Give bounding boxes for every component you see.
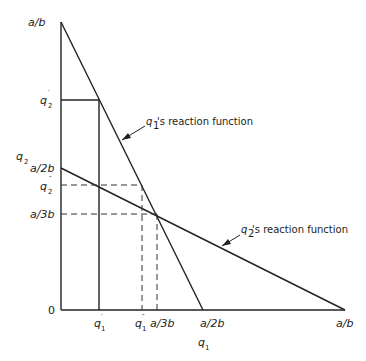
q1-reaction-line <box>61 22 203 310</box>
svg-text:q: q <box>135 317 142 330</box>
y-label-a-2b: a/2b <box>30 162 54 175</box>
q2-reaction-line <box>61 168 345 310</box>
svg-text:2: 2 <box>48 102 52 110</box>
x-label-a-2b: a/2b <box>200 317 224 330</box>
svg-text:′: ′ <box>48 89 50 97</box>
q2-annotation-arrowhead-icon <box>222 239 231 246</box>
x-axis-title: q 1 <box>198 336 209 352</box>
svg-text:″: ″ <box>142 313 145 321</box>
q1-annotation-arrowhead-icon <box>122 133 131 140</box>
svg-text:q: q <box>40 180 47 193</box>
svg-text:q: q <box>146 116 152 127</box>
origin-label: 0 <box>48 304 55 317</box>
y-label-a-3b: a/3b <box>30 208 54 221</box>
x-label-a-b: a/b <box>336 317 353 330</box>
svg-text:q: q <box>198 336 205 349</box>
svg-text:2: 2 <box>24 158 28 166</box>
q1-reaction-annotation: q 1 's reaction function <box>146 116 253 131</box>
svg-text:1: 1 <box>205 344 209 352</box>
q2-reaction-annotation: q 2 's reaction function <box>241 224 348 239</box>
x-label-q1-double-prime: q 1 ″ <box>135 313 146 333</box>
svg-text:′: ′ <box>101 313 103 321</box>
svg-text:'s reaction function: 's reaction function <box>157 116 253 127</box>
svg-text:″: ″ <box>49 175 52 183</box>
x-label-a-3b: a/3b <box>150 317 174 330</box>
svg-text:'s reaction function: 's reaction function <box>252 224 348 235</box>
y-label-q2-prime: q 2 ′ <box>40 89 52 110</box>
svg-text:2: 2 <box>48 188 52 196</box>
svg-text:1: 1 <box>142 325 146 333</box>
svg-text:q: q <box>16 150 23 163</box>
x-label-q1-prime: q 1 ′ <box>94 313 105 333</box>
svg-text:q: q <box>241 224 247 235</box>
svg-text:q: q <box>94 317 101 330</box>
y-axis-title: q 2 <box>16 150 28 166</box>
y-label-a-b: a/b <box>28 16 45 29</box>
svg-text:1: 1 <box>101 325 105 333</box>
reaction-function-diagram: a/b q 2 ′ q 2 a/2b q 2 ″ a/3b 0 q 1 ′ q … <box>0 0 366 361</box>
y-label-q2-double-prime: q 2 ″ <box>40 175 52 196</box>
svg-text:q: q <box>40 94 47 107</box>
